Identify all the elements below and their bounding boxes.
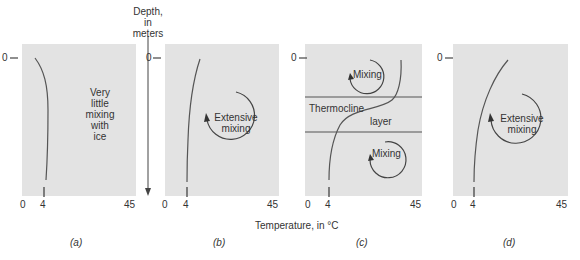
caption-c: (c) — [356, 237, 368, 248]
depth-zero-d: 0 — [437, 52, 443, 63]
caption-a: (a) — [70, 237, 82, 248]
x-tick-4-c: 4 — [325, 199, 331, 210]
caption-b: (b) — [213, 237, 225, 248]
mixing-label-lower: Mixing — [372, 148, 401, 159]
temp-profile-b — [187, 59, 200, 182]
x-tick-45-a: 45 — [124, 199, 135, 210]
x-tick-0-a: 0 — [20, 199, 26, 210]
depth-axis-label: Depth, in meters — [125, 6, 171, 39]
temperature-axis-label: Temperature, in °C — [255, 220, 338, 231]
x-tick-0-d: 0 — [451, 199, 457, 210]
x-tick-0-c: 0 — [305, 199, 311, 210]
depth-zero-a: 0 — [2, 52, 8, 63]
depth-zero-c: 0 — [291, 52, 297, 63]
annotation-b: Extensive mixing — [211, 112, 261, 134]
annotation-d: Extensive mixing — [497, 113, 547, 135]
x-tick-45-c: 45 — [410, 199, 421, 210]
x-tick-4-b: 4 — [183, 199, 189, 210]
thermocline-label: Thermocline — [309, 103, 364, 114]
x-tick-45-b: 45 — [267, 199, 278, 210]
caption-d: (d) — [503, 237, 515, 248]
depth-zero-b: 0 — [146, 52, 152, 63]
mixing-label-upper: Mixing — [353, 69, 382, 80]
x-tick-45-d: 45 — [556, 199, 567, 210]
x-tick-4-a: 4 — [40, 199, 46, 210]
x-tick-0-b: 0 — [162, 199, 168, 210]
temp-profile-a — [35, 58, 48, 180]
layer-label: layer — [370, 116, 392, 127]
annotation-a: Very little mixing with ice — [80, 87, 120, 142]
x-tick-4-d: 4 — [470, 199, 476, 210]
